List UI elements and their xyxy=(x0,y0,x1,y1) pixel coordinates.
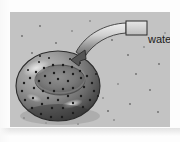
water-label: water xyxy=(148,33,170,46)
figure-root: water xyxy=(0,0,180,142)
illustration-canvas xyxy=(10,12,170,127)
scan-noise-left xyxy=(0,0,10,142)
illustration-panel: water xyxy=(10,12,170,127)
label-box xyxy=(126,21,147,35)
scan-noise-bottom xyxy=(0,128,180,136)
